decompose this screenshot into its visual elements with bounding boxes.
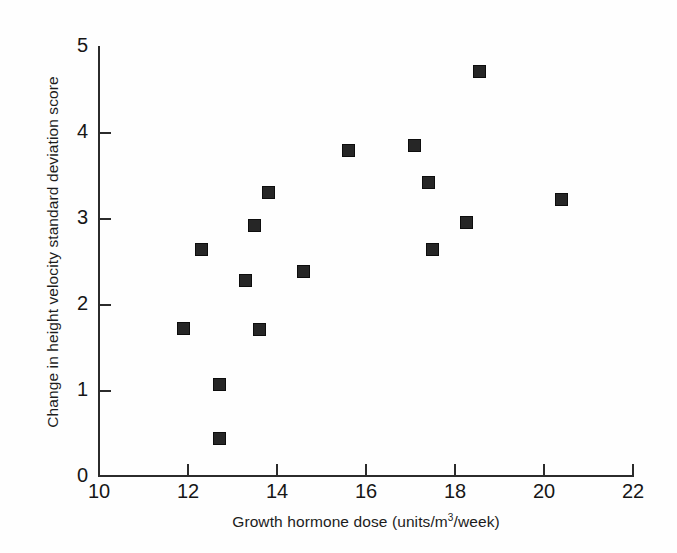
x-axis-label-prefix: Growth hormone dose (units/m: [232, 513, 448, 530]
data-point[interactable]: [213, 432, 226, 445]
x-tick-22: [632, 464, 634, 476]
y-tick-label-2: 2: [48, 292, 88, 315]
data-point[interactable]: [342, 144, 355, 157]
y-tick-1: [100, 390, 111, 392]
data-point[interactable]: [213, 378, 226, 391]
y-tick-label-1: 1: [48, 378, 88, 401]
data-point[interactable]: [253, 323, 266, 336]
data-point[interactable]: [297, 265, 310, 278]
x-tick-label-10: 10: [74, 480, 124, 503]
x-tick-label-14: 14: [252, 480, 302, 503]
x-tick-label-16: 16: [341, 480, 391, 503]
data-point[interactable]: [239, 274, 252, 287]
x-axis-label-suffix: /week): [454, 513, 500, 530]
y-axis-line: [98, 46, 100, 477]
x-tick-label-12: 12: [163, 480, 213, 503]
data-point[interactable]: [426, 243, 439, 256]
x-axis-label: Growth hormone dose (units/m3/week): [99, 513, 633, 531]
scatter-plot-figure: Change in height velocity standard devia…: [0, 0, 677, 553]
x-tick-label-20: 20: [519, 480, 569, 503]
plot-area: [0, 0, 677, 553]
data-point[interactable]: [408, 139, 421, 152]
x-tick-10: [98, 464, 100, 476]
x-tick-16: [365, 464, 367, 476]
y-axis-label: Change in height velocity standard devia…: [36, 12, 70, 492]
y-tick-2: [100, 304, 111, 306]
y-tick-label-4: 4: [48, 120, 88, 143]
data-point[interactable]: [555, 193, 568, 206]
data-point[interactable]: [177, 322, 190, 335]
y-tick-label-5: 5: [48, 34, 88, 57]
y-tick-label-3: 3: [48, 206, 88, 229]
x-tick-18: [454, 464, 456, 476]
data-point[interactable]: [422, 176, 435, 189]
data-point[interactable]: [473, 65, 486, 78]
x-tick-label-18: 18: [430, 480, 480, 503]
x-tick-14: [276, 464, 278, 476]
data-point[interactable]: [195, 243, 208, 256]
x-tick-20: [543, 464, 545, 476]
data-point[interactable]: [460, 216, 473, 229]
y-tick-3: [100, 218, 111, 220]
y-tick-4: [100, 132, 111, 134]
x-tick-label-22: 22: [608, 480, 658, 503]
data-point[interactable]: [262, 186, 275, 199]
data-point[interactable]: [248, 219, 261, 232]
x-tick-12: [187, 464, 189, 476]
